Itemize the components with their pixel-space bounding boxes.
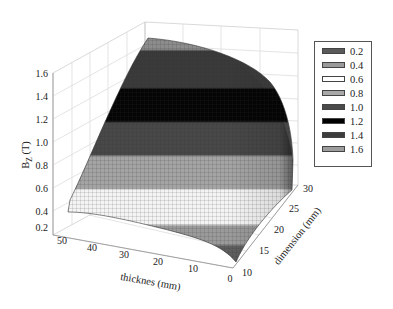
legend-label: 0.8 xyxy=(350,88,363,99)
y-tick: 30 xyxy=(303,183,313,194)
legend-item: 0.8 xyxy=(322,87,363,99)
legend-label: 1.0 xyxy=(350,102,363,113)
legend-swatch xyxy=(322,104,345,110)
z-axis-label: BZ (T) xyxy=(20,141,34,169)
legend-item: 0.2 xyxy=(322,45,363,57)
z-tick: 1.0 xyxy=(36,137,49,148)
legend-swatch xyxy=(322,48,345,54)
x-axis-label: thicknes (mm) xyxy=(119,271,182,293)
svg-text:BZ (T): BZ (T) xyxy=(20,141,34,169)
x-tick: 50 xyxy=(57,235,67,246)
legend-swatch xyxy=(322,62,345,68)
legend-label: 0.2 xyxy=(350,46,363,57)
z-tick: 0.6 xyxy=(36,183,49,194)
legend-item: 1.6 xyxy=(322,143,363,155)
legend-item: 1.2 xyxy=(322,115,363,127)
z-axis-ticks: 1.6 1.4 1.2 1.0 0.8 0.6 0.4 0.2 xyxy=(36,68,49,233)
legend-label: 1.4 xyxy=(350,130,363,141)
legend-swatch xyxy=(322,118,345,124)
legend-label: 0.4 xyxy=(350,60,363,71)
z-tick: 1.4 xyxy=(36,91,49,102)
x-tick: 30 xyxy=(119,249,129,260)
legend: 0.2 0.4 0.6 0.8 1.0 1.2 1.4 1.6 xyxy=(314,41,372,167)
z-tick: 0.4 xyxy=(36,206,49,217)
legend-item: 0.6 xyxy=(322,73,363,85)
z-tick: 1.2 xyxy=(36,114,49,125)
legend-swatch xyxy=(322,132,345,138)
x-tick: 20 xyxy=(153,256,163,267)
legend-label: 1.2 xyxy=(350,116,363,127)
y-tick: 15 xyxy=(259,245,269,256)
legend-item: 1.4 xyxy=(322,129,363,141)
legend-swatch xyxy=(322,146,345,152)
y-tick: 25 xyxy=(289,203,299,214)
z-tick: 0.2 xyxy=(36,222,49,233)
x-tick: 0 xyxy=(228,273,233,284)
y-axis-label: dimension (mm) xyxy=(271,205,324,268)
legend-item: 1.0 xyxy=(322,101,363,113)
z-tick: 1.6 xyxy=(36,68,49,79)
legend-swatch xyxy=(322,76,345,82)
x-tick: 40 xyxy=(87,242,97,253)
y-tick: 20 xyxy=(274,224,284,235)
legend-label: 0.6 xyxy=(350,74,363,85)
x-tick: 10 xyxy=(188,263,198,274)
surface xyxy=(68,38,293,262)
z-tick: 0.8 xyxy=(36,160,49,171)
y-tick: 10 xyxy=(242,267,252,278)
legend-swatch xyxy=(322,90,345,96)
legend-item: 0.4 xyxy=(322,59,363,71)
legend-label: 1.6 xyxy=(350,144,363,155)
